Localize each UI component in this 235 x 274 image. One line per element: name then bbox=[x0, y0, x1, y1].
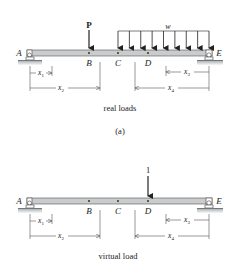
caption-real-loads: real loads bbox=[104, 103, 137, 113]
label-e: E bbox=[215, 196, 222, 206]
dimension-x3: x3 bbox=[166, 214, 209, 225]
point-b-dot bbox=[88, 52, 90, 54]
label-c: C bbox=[115, 206, 122, 216]
caption-virtual-load: virtual load bbox=[99, 251, 139, 261]
figure-virtual-load: A B C D E 1 x1 x2 x3 bbox=[15, 165, 223, 261]
point-c-dot bbox=[117, 200, 119, 202]
dimension-x1: x1 bbox=[30, 214, 52, 226]
label-e: E bbox=[215, 48, 222, 58]
label-a: A bbox=[15, 196, 22, 206]
svg-text:x3: x3 bbox=[183, 215, 190, 225]
beam bbox=[27, 50, 212, 56]
point-b-dot bbox=[88, 200, 90, 202]
point-c-dot bbox=[117, 52, 119, 54]
distributed-load-w: w bbox=[118, 22, 209, 48]
unit-load: 1 bbox=[146, 165, 150, 196]
svg-text:x1: x1 bbox=[37, 216, 44, 226]
load-label-w: w bbox=[165, 22, 171, 31]
figure-real-loads: A B C D E P w x1 x2 bbox=[15, 20, 223, 136]
figure-label-a: (a) bbox=[115, 126, 125, 136]
beam-diagram: A B C D E P w x1 x2 bbox=[0, 0, 235, 274]
point-load-p: P bbox=[86, 20, 92, 48]
dimension-x1: x1 bbox=[30, 66, 52, 78]
label-b: B bbox=[86, 58, 92, 68]
point-d-dot bbox=[147, 52, 149, 54]
unit-load-label: 1 bbox=[146, 165, 150, 175]
point-d-dot bbox=[147, 200, 149, 202]
label-d: D bbox=[144, 206, 152, 216]
svg-text:x4: x4 bbox=[167, 83, 174, 93]
svg-text:x4: x4 bbox=[167, 231, 174, 241]
label-c: C bbox=[115, 58, 122, 68]
svg-text:x2: x2 bbox=[57, 83, 64, 93]
dimension-x3: x3 bbox=[166, 66, 209, 77]
svg-text:x1: x1 bbox=[37, 68, 44, 78]
beam bbox=[27, 198, 212, 204]
label-b: B bbox=[86, 206, 92, 216]
load-label-p: P bbox=[86, 20, 92, 30]
svg-text:x3: x3 bbox=[183, 67, 190, 77]
svg-text:x2: x2 bbox=[57, 231, 64, 241]
label-d: D bbox=[144, 58, 152, 68]
label-a: A bbox=[15, 48, 22, 58]
